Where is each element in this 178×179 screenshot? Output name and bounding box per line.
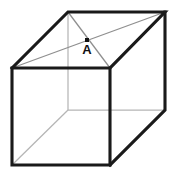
point-a-label: A	[82, 42, 92, 57]
cube-diagram-svg: A	[0, 0, 178, 179]
cube-figure-container: A	[0, 0, 178, 179]
